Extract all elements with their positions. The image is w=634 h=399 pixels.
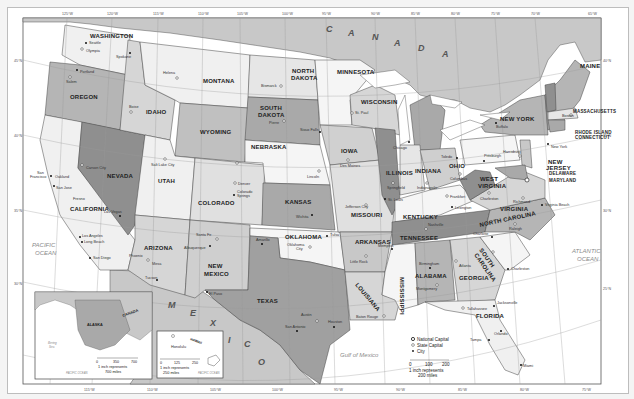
svg-text:Buffalo: Buffalo (496, 125, 508, 129)
svg-text:National Capital: National Capital (417, 337, 449, 342)
svg-text:95°W: 95°W (334, 388, 343, 392)
svg-text:30°N: 30°N (603, 209, 611, 213)
svg-text:Chicago: Chicago (393, 146, 407, 150)
svg-text:75°W: 75°W (491, 12, 500, 16)
svg-text:0: 0 (160, 361, 162, 365)
national-capital-icon (411, 337, 414, 340)
svg-text:Denver: Denver (238, 182, 251, 186)
state-kansas (262, 183, 335, 230)
svg-text:Baton Rouge: Baton Rouge (356, 315, 378, 319)
svg-text:Des Moines: Des Moines (340, 164, 360, 168)
state-vermont (545, 83, 556, 112)
svg-text:Santa Fe: Santa Fe (196, 233, 211, 237)
svg-text:110°W: 110°W (198, 12, 209, 16)
svg-text:RHODE ISLAND: RHODE ISLAND (575, 130, 612, 135)
svg-text:Lexington: Lexington (455, 206, 471, 210)
svg-text:WASHINGTON: WASHINGTON (90, 33, 133, 39)
svg-text:90°W: 90°W (371, 12, 380, 16)
svg-text:Wichita: Wichita (296, 215, 309, 219)
svg-text:105°W: 105°W (237, 12, 248, 16)
state-south-dakota (245, 97, 320, 145)
svg-text:115°W: 115°W (84, 388, 95, 392)
svg-text:El Paso: El Paso (209, 292, 222, 296)
svg-text:200 miles: 200 miles (418, 373, 438, 378)
city-icon (412, 350, 414, 352)
svg-text:Charlotte: Charlotte (473, 232, 488, 236)
svg-text:Boise: Boise (129, 105, 139, 109)
svg-text:A: A (441, 49, 449, 59)
svg-text:MONTANA: MONTANA (203, 78, 235, 84)
svg-text:700: 700 (131, 360, 137, 364)
svg-text:Mesa: Mesa (152, 262, 162, 266)
svg-text:IDAHO: IDAHO (146, 109, 166, 115)
svg-text:Richmond: Richmond (513, 200, 530, 204)
svg-text:NEBRASKA: NEBRASKA (251, 144, 287, 150)
state-colorado (190, 158, 265, 225)
svg-text:M: M (168, 300, 176, 310)
svg-text:Albuquerque: Albuquerque (184, 246, 206, 250)
svg-text:Columbus: Columbus (450, 177, 467, 181)
svg-text:MINNESOTA: MINNESOTA (337, 69, 375, 75)
svg-text:Pierre: Pierre (269, 121, 279, 125)
svg-text:C: C (244, 339, 251, 349)
svg-text:Nashville: Nashville (428, 223, 443, 227)
svg-text:45°N: 45°N (14, 59, 22, 63)
svg-text:Phoenix: Phoenix (129, 254, 143, 258)
svg-text:Springs: Springs (237, 194, 250, 198)
svg-text:WEST: WEST (480, 176, 498, 182)
svg-text:D: D (418, 43, 425, 53)
svg-text:UTAH: UTAH (158, 178, 175, 184)
svg-text:100: 100 (425, 362, 433, 367)
svg-text:Carson City: Carson City (86, 166, 106, 170)
svg-text:NEW: NEW (208, 263, 223, 269)
svg-text:MEXICO: MEXICO (204, 271, 229, 277)
state-capital-icon (412, 344, 415, 347)
svg-text:1 inch represents: 1 inch represents (98, 365, 127, 369)
svg-text:40°N: 40°N (14, 134, 22, 138)
svg-text:Las Vegas: Las Vegas (104, 210, 122, 214)
svg-text:San Antonio: San Antonio (285, 325, 305, 329)
svg-text:25°N: 25°N (603, 287, 611, 291)
svg-text:C: C (326, 24, 333, 34)
svg-text:WYOMING: WYOMING (200, 129, 232, 135)
svg-text:MARYLAND: MARYLAND (549, 178, 577, 183)
svg-text:Harrisburg: Harrisburg (503, 150, 521, 154)
svg-text:KANSAS: KANSAS (285, 199, 312, 205)
svg-text:X: X (209, 318, 217, 328)
svg-text:VIRGINIA: VIRGINIA (478, 183, 507, 189)
svg-text:NORTH: NORTH (292, 68, 314, 74)
svg-text:250 miles: 250 miles (163, 371, 179, 375)
svg-text:Charleston: Charleston (480, 197, 498, 201)
svg-text:St. Paul: St. Paul (355, 111, 368, 115)
top-longitude-ticks: 125°W 120°W 115°W 110°W 105°W 100°W 95°W… (62, 12, 597, 16)
svg-text:35°N: 35°N (14, 209, 22, 213)
bottom-longitude-ticks: 115°W 110°W 105°W 100°W 95°W 90°W 85°W 8… (84, 388, 591, 392)
svg-text:OCEAN: OCEAN (35, 250, 57, 256)
svg-text:125°W: 125°W (62, 12, 73, 16)
svg-text:Little Rock: Little Rock (350, 260, 368, 264)
svg-text:250: 250 (192, 361, 198, 365)
svg-text:ILLINOIS: ILLINOIS (386, 170, 413, 176)
svg-text:WISCONSIN: WISCONSIN (361, 99, 397, 105)
svg-text:Tulsa: Tulsa (330, 233, 340, 237)
svg-text:Fresno: Fresno (73, 197, 85, 201)
svg-text:75°W: 75°W (582, 388, 591, 392)
svg-text:O: O (258, 357, 265, 367)
svg-text:TEXAS: TEXAS (257, 298, 278, 304)
svg-text:PACIFIC OCEAN: PACIFIC OCEAN (198, 371, 221, 375)
svg-text:350: 350 (113, 360, 119, 364)
svg-text:30°N: 30°N (14, 282, 22, 286)
svg-text:115°W: 115°W (153, 12, 164, 16)
svg-text:40°N: 40°N (603, 59, 611, 63)
svg-text:Tucson: Tucson (145, 276, 157, 280)
svg-text:MAINE: MAINE (580, 63, 600, 69)
svg-text:DAKOTA: DAKOTA (291, 75, 318, 81)
svg-text:ARIZONA: ARIZONA (144, 245, 173, 251)
svg-text:ALABAMA: ALABAMA (415, 273, 447, 279)
svg-text:Jacksonville: Jacksonville (497, 301, 517, 305)
svg-text:Toledo: Toledo (441, 155, 452, 159)
svg-text:0: 0 (96, 360, 98, 364)
svg-text:E: E (190, 308, 197, 318)
svg-text:Portland: Portland (80, 70, 94, 74)
svg-text:PACIFIC OCEAN: PACIFIC OCEAN (66, 371, 89, 375)
